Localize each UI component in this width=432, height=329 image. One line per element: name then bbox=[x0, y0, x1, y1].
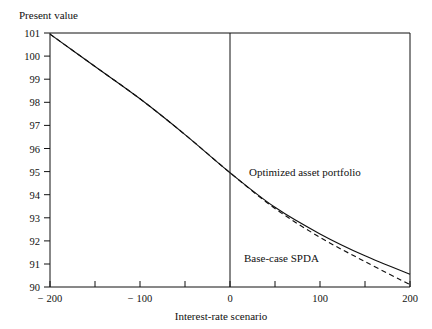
y-tick-marks bbox=[44, 33, 50, 287]
y-label-92: 92 bbox=[30, 236, 41, 247]
y-label-96: 96 bbox=[30, 144, 41, 155]
y-label-97: 97 bbox=[30, 120, 41, 131]
x-label-neg100: − 100 bbox=[128, 293, 152, 304]
y-label-100: 100 bbox=[24, 51, 40, 62]
y-label-99: 99 bbox=[30, 74, 41, 85]
y-label-90: 90 bbox=[30, 282, 41, 293]
x-axis-title: Interest-rate scenario bbox=[175, 310, 268, 322]
x-label-200: 200 bbox=[402, 293, 418, 304]
annotation-optimized-asset-portfolio: Optimized asset portfolio bbox=[249, 166, 361, 178]
y-label-98: 98 bbox=[30, 97, 41, 108]
y-label-95: 95 bbox=[30, 167, 41, 178]
x-label-100: 100 bbox=[312, 293, 328, 304]
present-value-chart: Present value 101 100 bbox=[0, 0, 432, 329]
x-label-zero: 0 bbox=[227, 293, 232, 304]
x-label-neg200: − 200 bbox=[38, 293, 62, 304]
annotation-base-case-spda: Base-case SPDA bbox=[244, 252, 319, 264]
y-label-101: 101 bbox=[24, 28, 40, 39]
chart-canvas: Present value 101 100 bbox=[0, 0, 432, 329]
y-axis-title: Present value bbox=[19, 9, 78, 21]
x-tick-marks bbox=[50, 281, 410, 287]
x-tick-labels: − 200 − 100 0 100 200 bbox=[38, 293, 418, 304]
y-label-93: 93 bbox=[30, 213, 41, 224]
y-label-94: 94 bbox=[30, 190, 41, 201]
y-tick-labels: 101 100 99 98 97 96 95 94 93 92 91 90 bbox=[24, 28, 41, 293]
y-label-91: 91 bbox=[30, 259, 41, 270]
